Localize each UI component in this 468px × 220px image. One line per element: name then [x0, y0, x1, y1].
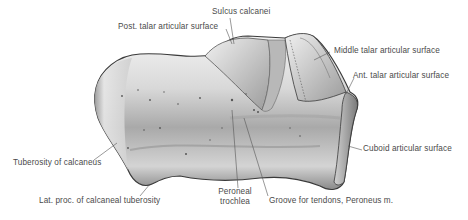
label-groove-peroneus: Groove for tendons, Peroneus m. [269, 197, 393, 205]
label-peroneal-trochlea: Peroneal trochlea [210, 188, 260, 206]
label-peroneal-line2: trochlea [210, 198, 260, 206]
label-middle-talar-surface: Middle talar articular surface [334, 47, 440, 55]
label-lat-proc: Lat. proc. of calcaneal tuberosity [39, 197, 160, 205]
label-cuboid-surface: Cuboid articular surface [363, 145, 452, 153]
label-sulcus-calcanei: Sulcus calcanei [212, 8, 270, 16]
label-peroneal-line1: Peroneal [210, 188, 260, 196]
calcaneus-diagram: Sulcus calcanei Post. talar articular su… [0, 0, 468, 220]
label-tuberosity: Tuberosity of calcaneus [13, 159, 101, 167]
label-ant-talar-surface: Ant. talar articular surface [353, 72, 449, 80]
label-post-talar-surface: Post. talar articular surface [118, 23, 218, 31]
